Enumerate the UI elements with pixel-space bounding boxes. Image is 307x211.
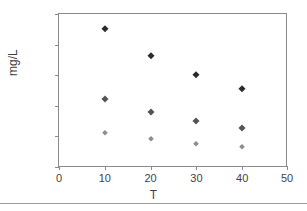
- bottom-divider: [0, 203, 307, 204]
- x-tick-label-10: 10: [85, 173, 125, 184]
- data-point: [238, 85, 246, 93]
- x-tick-label-0: 0: [39, 173, 79, 184]
- x-tick-10: [105, 166, 106, 170]
- x-tick-30: [196, 166, 197, 170]
- y-tick-30: [55, 75, 59, 76]
- y-tick-40: [55, 45, 59, 46]
- x-tick-label-40: 40: [222, 173, 262, 184]
- x-tick-40: [242, 166, 243, 170]
- plot-area: 50 40 30 20 10 0 0 10 20 30 40 50: [58, 13, 287, 167]
- data-point: [147, 109, 154, 116]
- data-point: [102, 130, 108, 136]
- scatter-chart-figure: mg/L 50 40 30 20 10 0 0 10 20 30 40 50 T: [0, 0, 307, 211]
- data-point: [101, 95, 108, 102]
- y-axis-title: mg/L: [6, 49, 20, 76]
- data-point: [147, 136, 153, 142]
- x-tick-label-50: 50: [267, 173, 307, 184]
- y-tick-10: [55, 136, 59, 137]
- x-tick-50: [287, 166, 288, 170]
- data-point: [193, 118, 200, 125]
- data-point: [239, 144, 245, 150]
- x-tick-20: [151, 166, 152, 170]
- data-point: [147, 52, 155, 60]
- x-axis-title: T: [0, 188, 307, 202]
- x-tick-0: [59, 166, 60, 170]
- data-point: [239, 124, 246, 131]
- data-point: [101, 26, 109, 34]
- x-tick-label-20: 20: [131, 173, 171, 184]
- data-point: [193, 141, 199, 147]
- x-tick-label-30: 30: [176, 173, 216, 184]
- y-tick-50: [55, 14, 59, 15]
- data-point: [193, 71, 201, 79]
- y-tick-20: [55, 106, 59, 107]
